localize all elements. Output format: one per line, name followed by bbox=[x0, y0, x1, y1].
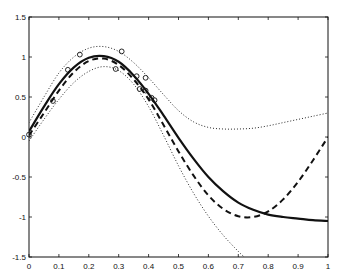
y-tick-label: 1 bbox=[22, 53, 27, 62]
x-tick-label: 0.9 bbox=[293, 262, 305, 271]
x-tick-label: 0.6 bbox=[203, 262, 215, 271]
x-tick-label: 1 bbox=[326, 262, 331, 271]
x-tick-label: 0.2 bbox=[83, 262, 95, 271]
y-axis-tick-labels: -1.5-1-0.500.511.5 bbox=[12, 13, 26, 262]
x-tick-label: 0.4 bbox=[143, 262, 155, 271]
x-tick-label: 0 bbox=[27, 262, 32, 271]
line-chart: 00.10.20.30.40.50.60.70.80.91 -1.5-1-0.5… bbox=[0, 0, 340, 279]
x-tick-label: 0.7 bbox=[233, 262, 245, 271]
y-tick-label: -1.5 bbox=[12, 253, 26, 262]
x-tick-label: 0.1 bbox=[53, 262, 65, 271]
y-tick-label: -0.5 bbox=[12, 173, 26, 182]
x-tick-label: 0.5 bbox=[173, 262, 185, 271]
y-tick-label: 0.5 bbox=[15, 93, 27, 102]
x-tick-label: 0.8 bbox=[263, 262, 275, 271]
y-tick-label: 0 bbox=[22, 133, 27, 142]
x-axis-tick-labels: 00.10.20.30.40.50.60.70.80.91 bbox=[27, 262, 331, 271]
y-tick-label: -1 bbox=[19, 213, 27, 222]
x-tick-label: 0.3 bbox=[113, 262, 125, 271]
y-tick-label: 1.5 bbox=[15, 13, 27, 22]
